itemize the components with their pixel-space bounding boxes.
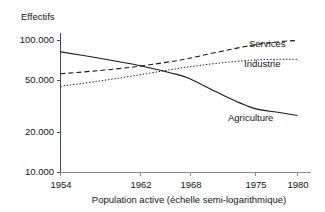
y-tick-label-10000: 10.000 (8, 166, 54, 177)
series-label-industrie: Industrie (244, 58, 280, 69)
x-tick-label-1968: 1968 (171, 179, 211, 190)
x-tick-label-1954: 1954 (41, 179, 81, 190)
series-label-agriculture: Agriculture (228, 112, 273, 123)
series-label-services: Services (249, 38, 285, 49)
y-tick-label-50000: 50.000 (8, 74, 54, 85)
chart-caption: Population active (échelle semi-logarith… (58, 194, 320, 205)
y-axis-title: Effectifs (21, 11, 55, 22)
chart-figure: Effectifs 100.000 50.000 20.000 10.000 1… (0, 0, 325, 212)
x-tick-label-1980: 1980 (278, 179, 318, 190)
x-tick-label-1962: 1962 (121, 179, 161, 190)
y-tick-label-20000: 20.000 (8, 126, 54, 137)
y-tick-label-100000: 100.000 (8, 34, 54, 45)
y-tick-marks (57, 41, 61, 173)
x-tick-label-1975: 1975 (236, 179, 276, 190)
